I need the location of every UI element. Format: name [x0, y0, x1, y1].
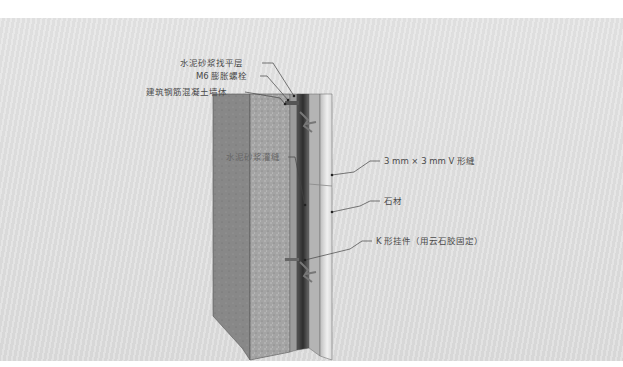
stone-panel [320, 94, 332, 360]
label-expansion-bolt: M6 膨胀螺栓 [196, 71, 247, 81]
label-mortar-leveling: 水泥砂浆找平层 [180, 58, 243, 68]
grout-cavity [297, 94, 309, 350]
wall-section-illustration [0, 0, 623, 367]
concrete-wall-front [250, 94, 290, 360]
mortar-layer [290, 94, 297, 352]
bolt-top [285, 101, 299, 105]
bolt-bottom [285, 258, 299, 261]
stone-edge [309, 94, 320, 356]
concrete-wall-side [213, 94, 250, 360]
label-stone: 石材 [384, 196, 402, 206]
label-k-hanger: K 形挂件（用云石胶固定） [376, 236, 483, 246]
label-grout-fill: 水泥砂浆灌缝 [226, 152, 280, 162]
label-v-joint: 3 mm × 3 mm V 形缝 [384, 156, 475, 166]
label-concrete-wall: 建筑钢筋混凝土墙体 [146, 87, 227, 97]
